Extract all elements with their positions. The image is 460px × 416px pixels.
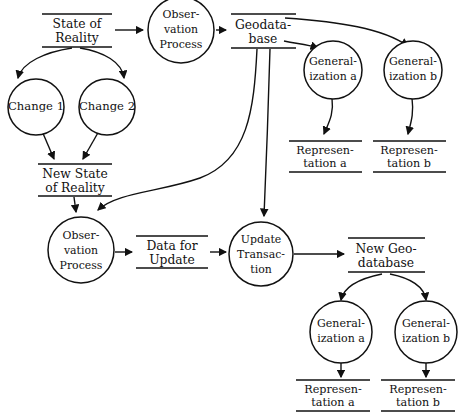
node-representation-b-top-line2: tation b [387, 157, 431, 170]
node-generalization-a-bottom-line2: ization a [317, 332, 365, 345]
node-representation-a-top-line2: tation a [303, 157, 347, 170]
node-generalization-a-bottom[interactable]: General- ization a [310, 301, 372, 363]
edge-generalization-b-to-representation-b [408, 98, 413, 134]
node-geodatabase-line2: base [249, 32, 278, 46]
node-representation-b-bottom[interactable]: Represen- tation b [381, 380, 455, 411]
node-generalization-b-bottom[interactable]: General- ization b [395, 301, 457, 363]
edge-new-geodatabase-to-generalization-a [341, 274, 382, 300]
edge-change1-to-newstate [42, 131, 54, 159]
node-data-for-update-line1: Data for [146, 239, 197, 253]
node-state-of-reality[interactable]: State of Reality [42, 14, 112, 47]
node-data-for-update[interactable]: Data for Update [136, 236, 208, 268]
edge-change2-to-newstate [83, 131, 99, 159]
node-observation-process-top-line1: Obser- [163, 8, 200, 21]
edge-state-to-change1 [18, 48, 72, 78]
edge-generalization-a-to-representation-a [324, 98, 332, 134]
edge-geodatabase-to-generalization-b [285, 18, 408, 46]
node-update-transaction[interactable]: Update Transac- tion [229, 222, 293, 286]
node-representation-a-bottom-line1: Represen- [304, 383, 362, 396]
node-representation-a-top-line1: Represen- [296, 144, 354, 157]
node-generalization-a-bottom-line1: General- [317, 317, 365, 330]
node-change-2[interactable]: Change 2 [79, 79, 135, 135]
node-generalization-b-top-line1: General- [389, 55, 437, 68]
node-change-2-label: Change 2 [79, 99, 135, 113]
node-generalization-b-top-line2: ization b [389, 70, 437, 83]
edge-new-geodatabase-to-generalization-b [390, 274, 426, 300]
node-new-state-of-reality-line2: of Reality [45, 181, 105, 195]
node-geodatabase[interactable]: Geodata- base [231, 14, 296, 48]
node-new-geodatabase-line2: database [358, 256, 414, 270]
node-data-for-update-line2: Update [149, 253, 195, 267]
node-state-of-reality-line2: Reality [55, 31, 99, 45]
node-new-geodatabase[interactable]: New Geo- database [348, 238, 425, 272]
edge-geodatabase-to-update-transaction [264, 49, 270, 216]
node-observation-process-bottom-line3: Process [60, 259, 103, 272]
node-state-of-reality-line1: State of [53, 17, 103, 31]
node-generalization-b-top[interactable]: General- ization b [384, 41, 442, 99]
node-representation-b-top[interactable]: Represen- tation b [373, 141, 446, 172]
node-observation-process-top-line3: Process [160, 38, 203, 51]
process-flow-diagram: State of Reality Obser- vation Process G… [0, 0, 460, 416]
node-new-state-of-reality-line1: New State [42, 167, 107, 181]
node-representation-a-top[interactable]: Represen- tation a [289, 141, 362, 172]
node-new-state-of-reality[interactable]: New State of Reality [38, 164, 112, 196]
node-observation-process-bottom-line1: Obser- [63, 229, 100, 242]
node-representation-b-bottom-line1: Represen- [389, 383, 447, 396]
node-change-1-label: Change 1 [8, 99, 64, 113]
node-update-transaction-line2: Transac- [237, 248, 285, 261]
node-generalization-b-bottom-line2: ization b [402, 332, 450, 345]
node-observation-process-bottom-line2: vation [63, 244, 98, 257]
node-generalization-b-bottom-line1: General- [402, 317, 450, 330]
node-change-1[interactable]: Change 1 [8, 79, 64, 135]
diagram-root: State of Reality Obser- vation Process G… [0, 0, 460, 416]
node-representation-a-bottom-line2: tation a [311, 396, 355, 409]
node-representation-b-top-line1: Represen- [380, 144, 438, 157]
node-observation-process-top[interactable]: Obser- vation Process [148, 0, 214, 63]
node-observation-process-bottom[interactable]: Obser- vation Process [48, 217, 114, 283]
node-update-transaction-line1: Update [241, 233, 281, 246]
node-representation-b-bottom-line2: tation b [396, 396, 440, 409]
node-generalization-a-top-line2: ization a [309, 70, 357, 83]
node-representation-a-bottom[interactable]: Represen- tation a [296, 380, 370, 411]
node-observation-process-top-line2: vation [163, 23, 198, 36]
node-new-geodatabase-line1: New Geo- [355, 242, 416, 256]
node-generalization-a-top[interactable]: General- ization a [304, 41, 362, 99]
edge-geodatabase-to-generalization-a [284, 41, 318, 48]
node-update-transaction-line3: tion [250, 263, 271, 276]
node-geodatabase-line1: Geodata- [235, 18, 291, 32]
edge-state-to-change2 [80, 48, 124, 78]
node-generalization-a-top-line1: General- [309, 55, 357, 68]
edge-newstate-to-observation-bottom [74, 197, 76, 212]
